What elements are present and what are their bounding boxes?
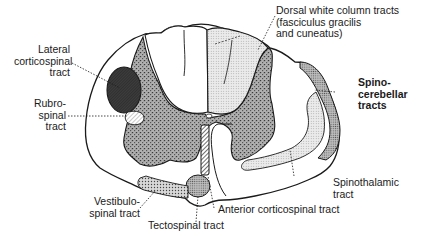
label-line: Rubro- bbox=[14, 98, 66, 110]
label-line: Spino- bbox=[358, 77, 408, 89]
label-lateral-corticospinal: Lateral corticospinal tract bbox=[14, 44, 70, 79]
label-line: Spinothalamic bbox=[333, 177, 399, 189]
anterior-corticospinal-tract bbox=[201, 125, 209, 175]
label-line: and cuneatus) bbox=[276, 28, 399, 40]
label-line: tract bbox=[333, 189, 399, 201]
label-line: Anterior corticospinal tract bbox=[218, 204, 339, 216]
tectospinal-tract bbox=[186, 175, 210, 197]
label-line: tracts bbox=[358, 100, 408, 112]
label-tectospinal: Tectospinal tract bbox=[148, 220, 224, 232]
rubrospinal-tract bbox=[125, 111, 144, 125]
label-line: tract bbox=[14, 121, 66, 133]
label-line: tract bbox=[14, 67, 70, 79]
label-rubrospinal: Rubro- spinal tract bbox=[14, 98, 66, 133]
label-spinocerebellar: Spino- cerebellar tracts bbox=[358, 77, 408, 112]
label-line: spinal tract bbox=[60, 208, 140, 220]
lateral-corticospinal-tract bbox=[107, 67, 141, 113]
label-anterior-corticospinal: Anterior corticospinal tract bbox=[218, 204, 339, 216]
central-canal bbox=[206, 114, 212, 118]
label-line: Dorsal white column tracts bbox=[276, 5, 399, 17]
label-line: Lateral bbox=[14, 44, 70, 56]
label-spinothalamic: Spinothalamic tract bbox=[333, 177, 399, 200]
label-vestibulospinal: Vestibulo- spinal tract bbox=[60, 196, 140, 219]
label-dorsal-white-column: Dorsal white column tracts (fasciculus g… bbox=[276, 5, 399, 40]
label-line: Vestibulo- bbox=[60, 196, 140, 208]
label-line: Tectospinal tract bbox=[148, 220, 224, 232]
